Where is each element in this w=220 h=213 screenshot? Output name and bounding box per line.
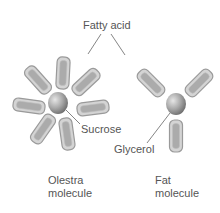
olestra-molecule bbox=[12, 57, 109, 151]
fatty-acid-rod bbox=[58, 117, 75, 150]
fat-molecule bbox=[135, 67, 215, 152]
fatty-acid-leader-right bbox=[111, 34, 125, 55]
fat-caption-line1: Fat bbox=[155, 174, 199, 187]
fat-caption-line2: molecule bbox=[155, 187, 199, 200]
fatty-acid-rod bbox=[170, 120, 183, 152]
olestra-molecule-caption: Olestra molecule bbox=[48, 174, 92, 200]
fatty-acid-leader-left bbox=[88, 34, 101, 54]
fatty-acid-label: Fatty acid bbox=[83, 19, 131, 32]
glycerol-leader bbox=[147, 113, 170, 143]
fatty-acid-rod bbox=[22, 64, 53, 96]
fatty-acid-rod bbox=[76, 100, 109, 117]
olestra-caption-line2: molecule bbox=[48, 187, 92, 200]
fatty-acid-rod bbox=[135, 67, 167, 99]
glycerol-label: Glycerol bbox=[114, 143, 154, 156]
glycerol-sphere bbox=[166, 93, 186, 115]
fatty-acid-rod bbox=[70, 66, 102, 97]
fat-molecule-caption: Fat molecule bbox=[155, 174, 199, 200]
fatty-acid-rod bbox=[183, 67, 215, 99]
olestra-caption-line1: Olestra bbox=[48, 174, 92, 187]
fatty-acid-rod bbox=[12, 97, 45, 114]
sucrose-label: Sucrose bbox=[81, 123, 121, 136]
fatty-acid-rod bbox=[56, 57, 71, 90]
sucrose-sphere bbox=[48, 92, 68, 114]
fatty-acid-rod bbox=[28, 112, 57, 146]
